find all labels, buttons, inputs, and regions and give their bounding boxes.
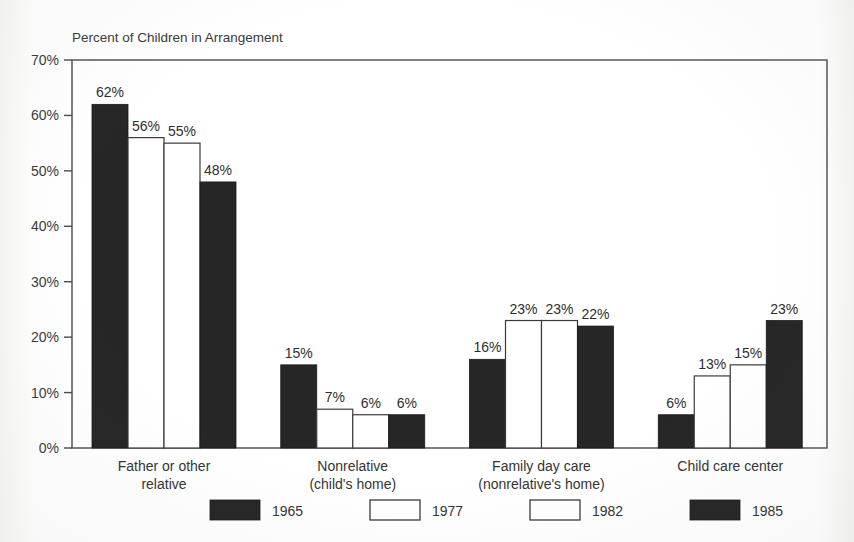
category-label: Child care center [677, 458, 783, 474]
bar-value-label: 23% [545, 301, 573, 317]
bar-1985-1 [389, 415, 425, 448]
bar-1985-3 [766, 321, 802, 448]
bar-1985-0 [200, 182, 236, 448]
bar-value-label: 6% [666, 395, 686, 411]
bar-value-label: 23% [770, 301, 798, 317]
legend-label-1982: 1982 [592, 503, 623, 519]
bars-layer [92, 104, 802, 448]
bar-value-label: 22% [581, 306, 609, 322]
category-label: (nonrelative's home) [478, 476, 604, 492]
bar-1982-3 [730, 365, 766, 448]
bar-value-label: 16% [473, 339, 501, 355]
bar-value-label: 6% [361, 395, 381, 411]
legend-swatch-1982 [530, 500, 580, 520]
bar-1977-3 [694, 376, 730, 448]
y-tick-label: 40% [31, 218, 59, 234]
y-tick-label: 70% [31, 52, 59, 68]
bar-1982-2 [542, 321, 578, 448]
legend-swatch-1977 [370, 500, 420, 520]
bar-1985-2 [578, 326, 614, 448]
bar-value-label: 62% [96, 84, 124, 100]
legend-label-1985: 1985 [752, 503, 783, 519]
bar-1977-2 [506, 321, 542, 448]
bar-value-label: 6% [397, 395, 417, 411]
bar-value-label: 23% [509, 301, 537, 317]
y-tick-label: 30% [31, 274, 59, 290]
y-tick-label: 20% [31, 329, 59, 345]
bar-1965-0 [92, 104, 128, 448]
bar-value-label: 55% [168, 123, 196, 139]
legend-swatch-1965 [210, 500, 260, 520]
bar-value-label: 15% [734, 345, 762, 361]
bar-1977-1 [317, 409, 353, 448]
bar-1982-0 [164, 143, 200, 448]
category-label: (child's home) [309, 476, 396, 492]
legend-swatch-1985 [690, 500, 740, 520]
y-tick-label: 10% [31, 385, 59, 401]
chart-page: Percent of Children in Arrangement 0%10%… [0, 0, 854, 542]
bar-value-label: 15% [285, 345, 313, 361]
y-tick-label: 0% [39, 440, 59, 456]
legend-label-1977: 1977 [432, 503, 463, 519]
bar-value-label: 48% [204, 162, 232, 178]
bar-value-label: 56% [132, 118, 160, 134]
y-axis-ticks: 0%10%20%30%40%50%60%70% [31, 52, 72, 456]
bar-1982-1 [353, 415, 389, 448]
bar-1965-1 [281, 365, 317, 448]
bar-chart: Percent of Children in Arrangement 0%10%… [0, 0, 854, 542]
bar-1965-3 [658, 415, 694, 448]
category-label: relative [141, 476, 186, 492]
category-labels-layer: Father or otherrelativeNonrelative(child… [118, 458, 784, 492]
bar-value-label: 7% [325, 389, 345, 405]
category-label: Father or other [118, 458, 211, 474]
bar-value-label: 13% [698, 356, 726, 372]
chart-legend: 1965197719821985 [210, 500, 783, 520]
bar-1977-0 [128, 138, 164, 448]
category-label: Family day care [492, 458, 591, 474]
y-tick-label: 60% [31, 107, 59, 123]
bar-1965-2 [470, 359, 506, 448]
legend-label-1965: 1965 [272, 503, 303, 519]
category-label: Nonrelative [317, 458, 388, 474]
y-tick-label: 50% [31, 163, 59, 179]
axis-title: Percent of Children in Arrangement [72, 30, 283, 45]
